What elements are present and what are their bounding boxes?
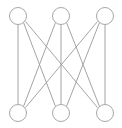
graph-node-b1 bbox=[10, 105, 27, 122]
graph-node-b3 bbox=[97, 105, 114, 122]
bipartite-graph-figure bbox=[0, 0, 122, 128]
graph-node-t1 bbox=[10, 8, 27, 25]
graph-node-b2 bbox=[53, 105, 70, 122]
graph-node-t3 bbox=[97, 8, 114, 25]
graph-node-t2 bbox=[53, 8, 70, 25]
